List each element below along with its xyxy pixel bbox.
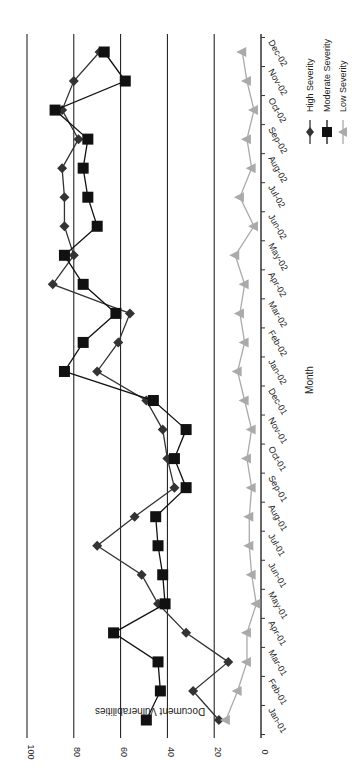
data-point-square bbox=[99, 47, 110, 58]
series-line bbox=[53, 52, 229, 720]
month-tick-label: Jun-01 bbox=[266, 561, 288, 590]
data-point-diamond bbox=[158, 425, 168, 435]
month-tick-labels: Jan-01Feb-01Mar-01Apr-01May-01Jun-01Jul-… bbox=[266, 38, 290, 735]
month-tick-label: Nov-01 bbox=[266, 416, 289, 446]
month-tick-label: Jan-02 bbox=[266, 357, 288, 386]
month-tick-label: Jun-02 bbox=[266, 212, 288, 241]
month-tick-label: Sep-02 bbox=[266, 125, 289, 155]
series-low-severity bbox=[220, 47, 260, 725]
data-point-square bbox=[78, 279, 89, 290]
month-tick-label: Mar-02 bbox=[266, 299, 289, 329]
data-point-square bbox=[59, 250, 70, 261]
month-tick-label: Mar-01 bbox=[266, 648, 289, 678]
series-line bbox=[226, 52, 256, 720]
month-tick-label: Feb-01 bbox=[266, 677, 289, 707]
data-point-triangle bbox=[241, 134, 251, 144]
month-tick-label: May-02 bbox=[266, 241, 290, 272]
legend-item: High Severity bbox=[305, 58, 315, 144]
data-point-square bbox=[150, 511, 161, 522]
month-tick-label: Oct-01 bbox=[266, 445, 288, 473]
month-tick-label: Sep-01 bbox=[266, 474, 289, 504]
data-point-triangle bbox=[243, 541, 253, 551]
data-point-square bbox=[153, 540, 164, 551]
data-point-square bbox=[110, 308, 121, 319]
month-axis bbox=[261, 34, 265, 738]
data-point-triangle bbox=[236, 47, 246, 57]
data-point-diamond bbox=[73, 134, 83, 144]
month-tick-label: Jul-02 bbox=[266, 183, 287, 209]
data-point-square bbox=[92, 221, 103, 232]
month-tick-label: Jul-01 bbox=[266, 532, 287, 558]
data-point-square bbox=[82, 192, 93, 203]
month-tick-label: Apr-01 bbox=[266, 619, 288, 647]
data-point-diamond bbox=[48, 279, 58, 289]
data-point-triangle bbox=[234, 308, 244, 318]
legend-item: Moderate Severity bbox=[322, 38, 332, 144]
value-tick-labels: 020406080100 bbox=[26, 744, 270, 759]
data-point-triangle bbox=[246, 570, 256, 580]
data-point-diamond bbox=[59, 192, 69, 202]
data-point-square bbox=[59, 366, 70, 377]
month-tick-label: Jan-01 bbox=[266, 706, 288, 735]
data-point-diamond bbox=[59, 221, 69, 231]
month-tick-label: Nov-02 bbox=[266, 67, 289, 97]
data-point-square bbox=[157, 569, 168, 580]
data-point-triangle bbox=[229, 250, 239, 260]
legend-label: Low Severity bbox=[338, 60, 348, 112]
data-point-square bbox=[120, 76, 131, 87]
data-point-triangle bbox=[241, 454, 251, 464]
month-tick-label: Aug-02 bbox=[266, 154, 289, 184]
data-point-square bbox=[50, 105, 61, 116]
data-point-triangle bbox=[232, 366, 242, 376]
value-tick-label: 40 bbox=[166, 747, 176, 757]
legend-item: Low Severity bbox=[338, 60, 348, 144]
vulnerability-chart: 020406080100 Jan-01Feb-01Mar-01Apr-01May… bbox=[0, 0, 352, 776]
value-tick-label: 20 bbox=[213, 747, 223, 757]
data-point-square bbox=[160, 598, 171, 609]
series-group bbox=[48, 47, 261, 726]
data-point-triangle bbox=[234, 192, 244, 202]
month-tick-label: Oct-02 bbox=[266, 96, 288, 124]
month-tick-label: Feb-02 bbox=[266, 328, 289, 358]
data-point-diamond bbox=[69, 250, 79, 260]
data-point-diamond bbox=[169, 483, 179, 493]
data-point-diamond bbox=[92, 366, 102, 376]
data-point-square bbox=[155, 685, 166, 696]
data-point-square bbox=[108, 627, 119, 638]
legend-diamond-icon bbox=[306, 127, 314, 137]
month-tick-label: Apr-02 bbox=[266, 270, 288, 298]
data-point-square bbox=[78, 163, 89, 174]
data-point-triangle bbox=[220, 715, 230, 725]
month-tick-label: Dec-02 bbox=[266, 38, 289, 68]
value-tick-label: 0 bbox=[260, 749, 270, 754]
data-point-diamond bbox=[57, 163, 67, 173]
data-point-diamond bbox=[137, 570, 147, 580]
legend-square-icon bbox=[322, 127, 332, 137]
data-point-square bbox=[82, 134, 93, 145]
data-point-diamond bbox=[113, 337, 123, 347]
legend-label: High Severity bbox=[305, 58, 315, 112]
data-point-square bbox=[78, 337, 89, 348]
month-tick-label: Dec-01 bbox=[266, 387, 289, 417]
month-tick-label: May-01 bbox=[266, 590, 290, 621]
value-tick-label: 60 bbox=[119, 747, 129, 757]
data-point-diamond bbox=[125, 308, 135, 318]
value-tick-label: 100 bbox=[26, 744, 36, 759]
data-point-triangle bbox=[241, 628, 251, 638]
data-point-square bbox=[181, 424, 192, 435]
month-tick-label: Aug-01 bbox=[266, 503, 289, 533]
data-point-square bbox=[148, 395, 159, 406]
series-high-severity bbox=[48, 47, 234, 725]
data-point-square bbox=[153, 656, 164, 667]
x-axis-title: Month bbox=[304, 366, 315, 394]
data-point-square bbox=[169, 453, 180, 464]
y-axis-title: Document Vulnerabilities bbox=[95, 706, 205, 717]
legend: High SeverityModerate SeverityLow Severi… bbox=[305, 38, 348, 144]
legend-label: Moderate Severity bbox=[322, 38, 332, 112]
data-point-square bbox=[181, 482, 192, 493]
value-tick-label: 80 bbox=[72, 747, 82, 757]
data-point-triangle bbox=[243, 512, 253, 522]
